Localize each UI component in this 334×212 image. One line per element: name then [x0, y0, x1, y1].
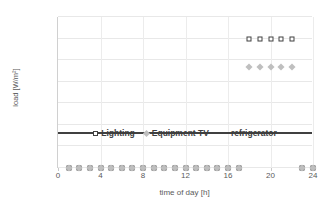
data-point — [247, 36, 252, 41]
x-tick-label: 24 — [301, 171, 325, 180]
x-tick-label: 4 — [89, 171, 113, 180]
data-point — [278, 63, 285, 70]
legend-label: refrigerator — [231, 128, 277, 138]
open-square-icon — [93, 131, 98, 136]
x-gridline — [186, 17, 187, 168]
legend-label: Equipment TV — [152, 128, 209, 138]
legend-entry[interactable]: refrigerator — [218, 128, 277, 138]
x-gridline — [228, 17, 229, 168]
data-point — [288, 63, 295, 70]
y-axis-title-text: load [W/m²] — [11, 68, 20, 106]
legend-label: Lighting — [101, 128, 135, 138]
data-point — [267, 63, 274, 70]
data-point — [268, 36, 273, 41]
data-point — [257, 36, 262, 41]
x-gridline — [101, 17, 102, 168]
legend-entry[interactable]: Equipment TV — [144, 128, 209, 138]
data-point — [279, 36, 284, 41]
x-tick-label: 12 — [174, 171, 198, 180]
legend-entry[interactable]: Lighting — [93, 128, 135, 138]
x-gridline — [313, 17, 314, 168]
x-tick-label: 8 — [131, 171, 155, 180]
chart-legend: LightingEquipment TVrefrigerator — [58, 128, 312, 138]
line-icon — [218, 132, 228, 134]
x-axis-title: time of day [h] — [57, 188, 312, 197]
x-gridline — [143, 17, 144, 168]
x-tick-label: 0 — [46, 171, 70, 180]
x-tick-label: 16 — [216, 171, 240, 180]
y-axis-title: load [W/m²] — [8, 0, 22, 175]
plot-area: 0.02.04.06.08.010.012.014.004812162024Li… — [57, 17, 312, 168]
x-tick-label: 20 — [259, 171, 283, 180]
data-point — [289, 36, 294, 41]
diamond-icon — [143, 130, 150, 137]
chart-container: load [W/m²] 0.02.04.06.08.010.012.014.00… — [0, 0, 334, 212]
data-point — [246, 63, 253, 70]
data-point — [256, 63, 263, 70]
